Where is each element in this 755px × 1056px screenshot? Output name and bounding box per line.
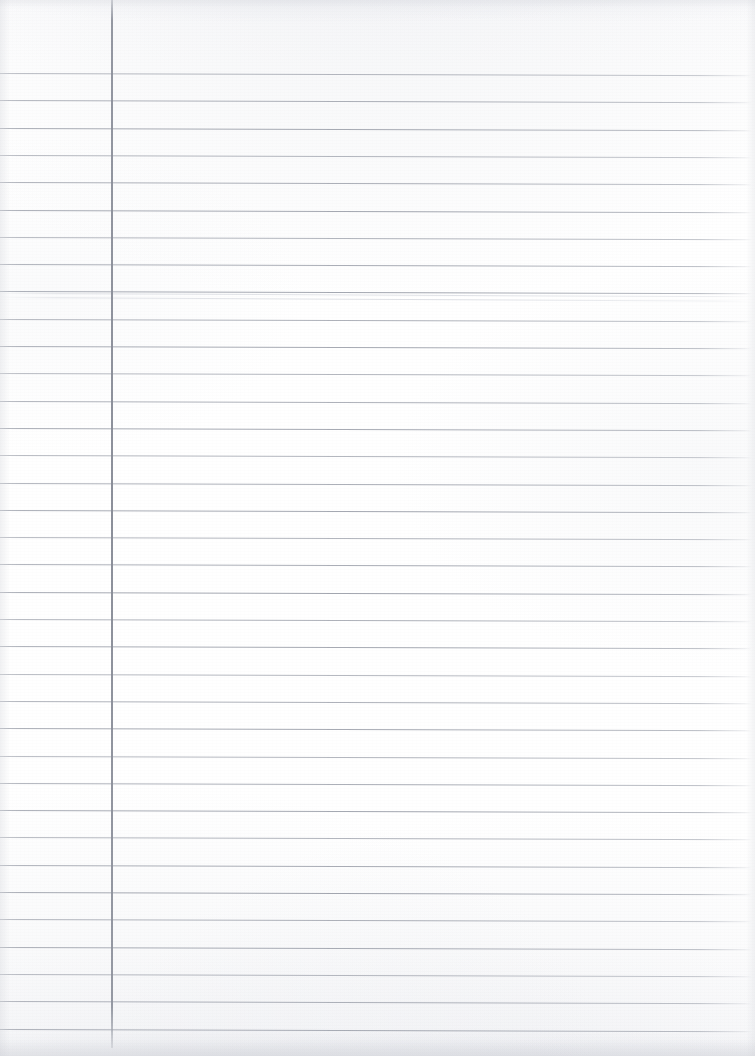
paper-background bbox=[0, 0, 755, 1056]
scanned-page bbox=[0, 0, 755, 1056]
